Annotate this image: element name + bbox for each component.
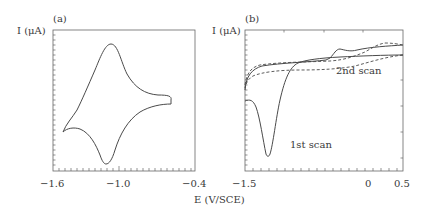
panel-a-cv-curve [63,44,171,164]
panel-a-label: (a) [53,13,67,24]
panel-b-second-scan-curve [245,43,403,85]
panel-b-x-ticks [253,168,397,171]
x-axis-label: E (V/SCE) [194,194,245,205]
panel-a-frame [53,30,195,171]
panel-b-label: (b) [245,13,259,24]
panel-a-x-tick-label: −0.4 [182,178,206,189]
panel-a-x-tick-label: −1.0 [106,178,130,189]
panel-a-x-tick-label: −1.6 [40,178,64,189]
first-scan-annotation: 1st scan [290,139,332,150]
panel-a-y-axis-label: I (μA) [17,25,46,36]
panel-a-x-ticks [59,166,191,171]
panel-b-y-axis-label: I (μA) [212,25,241,36]
panel-b-x-tick-label: 0.5 [394,178,410,189]
second-scan-annotation: 2nd scan [336,65,382,76]
panel-b-x-tick-label: 0 [365,178,371,189]
panel-b-x-tick-label: −1.5 [232,178,256,189]
